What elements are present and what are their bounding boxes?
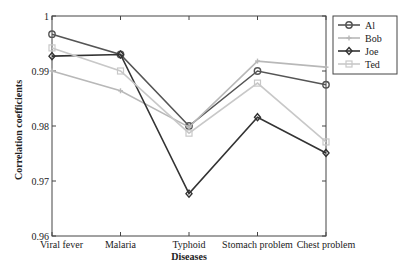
series-al — [49, 31, 329, 129]
legend: AlBobJoeTed — [333, 16, 397, 74]
y-tick-label: 0.99 — [32, 66, 50, 77]
x-axis-title: Diseases — [171, 251, 207, 262]
x-tick-label: Viral fever — [40, 239, 84, 250]
legend-label: Bob — [365, 33, 382, 44]
x-tick-label: Typhoid — [172, 239, 205, 250]
y-tick-label: 0.98 — [32, 121, 50, 132]
line-chart: 0.960.970.980.991Viral feverMalariaTypho… — [0, 0, 400, 275]
y-axis-title: Correlation coefficients — [13, 80, 24, 180]
series-bob — [50, 59, 329, 130]
x-tick-label: Chest problem — [297, 239, 356, 250]
x-tick-label: Stomach problem — [222, 239, 293, 250]
legend-label: Al — [365, 20, 375, 31]
y-tick-label: 0.97 — [32, 176, 50, 187]
chart-canvas: 0.960.970.980.991Viral feverMalariaTypho… — [0, 0, 400, 275]
series-joe — [49, 51, 329, 197]
y-tick-label: 1 — [44, 11, 49, 22]
x-tick-label: Malaria — [105, 239, 137, 250]
legend-label: Ted — [365, 59, 380, 70]
series-ted — [49, 45, 329, 145]
legend-label: Joe — [365, 46, 379, 57]
